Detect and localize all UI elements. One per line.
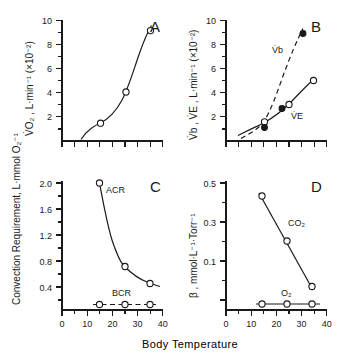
- panel-b-ytick-2: 2: [211, 112, 216, 122]
- panel-b-ve-curve: [238, 79, 314, 136]
- panel-d-xtick-10: 10: [246, 319, 256, 329]
- panel-d-ytick-0-1: 0.1: [203, 257, 216, 267]
- panel-b-y-ticks: [220, 20, 226, 129]
- panel-c-xtick-20: 20: [107, 319, 117, 329]
- panel-b-ytick-6: 6: [211, 64, 216, 74]
- panel-a-y-axis-title: V̇O₂ , L·min⁻¹ (×10⁻²): [23, 41, 35, 136]
- panel-a-y-ticks: [56, 20, 62, 129]
- panel-d: 0.5 0.3 0.1 0 10 20 30 40 β , mmol·L⁻¹·T…: [188, 178, 332, 329]
- panel-c-bcr-label: BCR: [112, 288, 132, 298]
- panel-a: 10 8 6 4 2 V̇O₂ , L·min⁻¹ (×10⁻²) A: [23, 16, 163, 148]
- panel-b-ytick-4: 4: [211, 88, 216, 98]
- panel-d-xtick-0: 0: [223, 319, 228, 329]
- panel-d-co2-label: CO₂: [288, 218, 306, 228]
- panel-c-ytick-2-0: 2.0: [39, 179, 52, 189]
- panel-d-o2-label: O₂: [281, 288, 292, 298]
- panel-c: 2.0 1.6 1.2 0.8 0.4 0 10 20 30 40 Convec…: [11, 133, 168, 329]
- panel-c-xtick-40: 40: [158, 319, 168, 329]
- panel-c-ytick-0-4: 0.4: [39, 283, 52, 293]
- figure-panel-grid: 10 8 6 4 2 V̇O₂ , L·min⁻¹ (×10⁻²) A: [0, 0, 345, 356]
- panel-b: 10 8 6 4 2 V̇b , V̇E , L·min⁻¹ (×10⁻²) V…: [187, 16, 327, 148]
- panel-b-ytick-10: 10: [206, 16, 216, 26]
- panel-d-y-ticks: [220, 183, 226, 300]
- panel-c-acr-label: ACR: [106, 185, 126, 195]
- panel-a-ytick-8: 8: [47, 40, 52, 50]
- panel-d-xtick-30: 30: [297, 319, 307, 329]
- panel-d-xtick-20: 20: [271, 319, 281, 329]
- panel-a-ytick-4: 4: [47, 88, 52, 98]
- panel-c-xtick-30: 30: [133, 319, 143, 329]
- panel-b-x-ticks: [226, 141, 327, 147]
- panel-a-vo2-curve: [81, 26, 152, 140]
- panel-d-y-axis-title: β , mmol·L⁻¹·Torr⁻¹: [188, 213, 199, 298]
- panel-a-ytick-2: 2: [47, 112, 52, 122]
- panel-c-xtick-0: 0: [59, 319, 64, 329]
- panel-d-ytick-0-3: 0.3: [203, 218, 216, 228]
- panel-d-letter: D: [311, 178, 322, 195]
- panel-c-y-axis-title: Convection Requirement, L·mmol O₂⁻¹: [11, 133, 22, 305]
- panel-a-vo2-markers: [97, 28, 153, 127]
- panel-c-xtick-10: 10: [82, 319, 92, 329]
- panel-c-ytick-1-2: 1.2: [39, 231, 52, 241]
- panel-c-x-ticks: [62, 310, 163, 316]
- x-axis-title: Body Temperature: [142, 338, 238, 350]
- panel-a-ytick-6: 6: [47, 64, 52, 74]
- panel-d-xtick-40: 40: [322, 319, 332, 329]
- panel-c-ytick-1-6: 1.6: [39, 205, 52, 215]
- panel-b-ytick-8: 8: [211, 40, 216, 50]
- panel-b-letter: B: [311, 18, 321, 35]
- panel-d-ytick-0-5: 0.5: [203, 179, 216, 189]
- panel-d-x-ticks: [226, 310, 327, 316]
- panel-c-ytick-0-8: 0.8: [39, 257, 52, 267]
- panel-a-x-ticks: [62, 141, 163, 147]
- panel-c-y-ticks: [56, 183, 62, 300]
- panel-b-vb-label: V̇b: [272, 45, 283, 55]
- panel-c-acr-markers: [96, 180, 153, 287]
- panel-c-letter: C: [150, 178, 161, 195]
- figure-svg: 10 8 6 4 2 V̇O₂ , L·min⁻¹ (×10⁻²) A: [0, 0, 345, 356]
- panel-b-ve-label: V̇E: [291, 111, 303, 121]
- panel-c-acr-curve: [100, 183, 161, 287]
- panel-a-ytick-10: 10: [42, 16, 52, 26]
- panel-b-y-axis-title: V̇b , V̇E , L·min⁻¹ (×10⁻²): [187, 30, 199, 140]
- panel-a-letter: A: [150, 18, 160, 35]
